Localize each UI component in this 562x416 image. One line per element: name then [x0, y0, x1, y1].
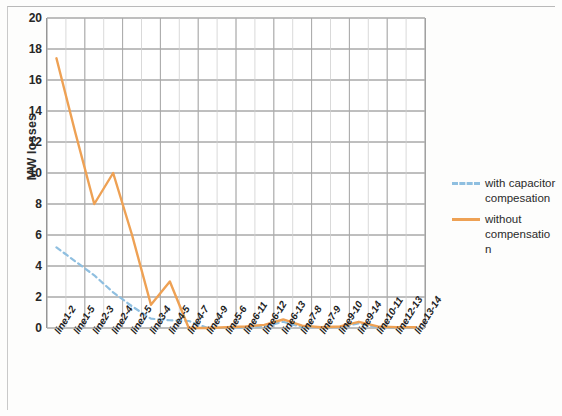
chart-legend: with capacitor compesationwithout compen… [452, 176, 558, 263]
y-axis-tick-labels: 20181614121086420 [16, 0, 42, 416]
legend-entry[interactable]: with capacitor compesation [452, 176, 558, 206]
y-tick-label: 12 [20, 136, 42, 148]
legend-swatch-dashed-icon [452, 182, 480, 185]
y-tick-label: 10 [20, 167, 42, 179]
y-tick-label: 4 [20, 260, 42, 272]
line-chart: MW losses 20181614121086420 line1-2line1… [0, 0, 562, 416]
legend-label: without compensatio n [485, 212, 558, 257]
series-lines [47, 18, 425, 328]
y-tick-label: 16 [20, 74, 42, 86]
y-tick-label: 8 [20, 198, 42, 210]
y-tick-label: 20 [20, 12, 42, 24]
y-tick-label: 18 [20, 43, 42, 55]
legend-entry[interactable]: without compensatio n [452, 212, 558, 257]
y-tick-label: 2 [20, 291, 42, 303]
plot-area [46, 18, 426, 328]
y-tick-label: 0 [20, 322, 42, 334]
series-line-2 [56, 58, 415, 328]
legend-swatch-solid-icon [452, 218, 480, 221]
y-tick-label: 14 [20, 105, 42, 117]
x-axis-tick-labels: line1-2line1-5line2-3line2-4line2-5line3… [46, 330, 424, 416]
legend-label: with capacitor compesation [485, 176, 558, 206]
y-tick-label: 6 [20, 229, 42, 241]
